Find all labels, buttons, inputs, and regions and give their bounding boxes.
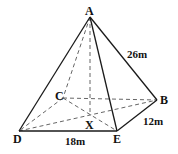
label-C: C xyxy=(55,89,64,103)
label-B: B xyxy=(160,93,168,107)
label-D: D xyxy=(13,132,22,146)
label-E: E xyxy=(113,132,121,146)
edge-AC xyxy=(63,17,90,98)
measure-DE: 18m xyxy=(65,135,85,147)
measure-AB: 26m xyxy=(127,48,147,60)
measure-EB: 12m xyxy=(143,115,163,127)
edge-AD xyxy=(19,17,90,131)
label-A: A xyxy=(85,4,94,18)
label-X: X xyxy=(85,118,94,132)
pyramid-diagram: A B C D E X 26m 12m 18m xyxy=(0,0,178,154)
